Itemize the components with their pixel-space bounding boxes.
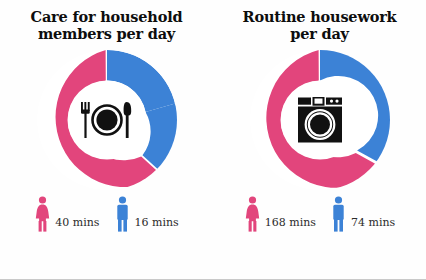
title-line-1: Care for household — [31, 8, 183, 25]
title-line-2: members per day — [38, 25, 175, 42]
legend-label-male-care: 16 mins — [135, 216, 179, 232]
washing-machine-icon — [296, 97, 344, 143]
legend-item-female-care[interactable]: 40 mins — [34, 196, 99, 232]
legend-label-female-housework: 168 mins — [265, 216, 316, 232]
legend-care: 40 mins 16 mins — [7, 196, 207, 232]
donut-center-housework — [281, 81, 359, 159]
page-title-care: Care for household members per day — [7, 8, 207, 42]
chart-panel-routine-housework: Routine housework per day — [213, 0, 426, 270]
donut-center-care — [68, 81, 146, 159]
page-title-housework: Routine housework per day — [220, 8, 420, 42]
title-line-1: Routine housework — [243, 8, 397, 25]
male-pictogram-icon — [330, 196, 347, 232]
legend-item-male-care[interactable]: 16 mins — [114, 196, 179, 232]
female-pictogram-icon — [34, 196, 51, 232]
female-pictogram-icon — [244, 196, 261, 232]
legend-item-female-housework[interactable]: 168 mins — [244, 196, 316, 232]
infographic-sheet: Care for household members per day — [0, 0, 426, 280]
male-pictogram-icon — [114, 196, 131, 232]
plate-fork-knife-icon — [78, 100, 136, 140]
donut-chart-housework — [250, 50, 390, 190]
chart-panel-care-for-household-members: Care for household members per day — [0, 0, 213, 270]
panels-container: Care for household members per day — [0, 0, 426, 270]
title-line-2: per day — [290, 25, 349, 42]
legend-housework: 168 mins 74 mins — [220, 196, 420, 232]
legend-label-female-care: 40 mins — [55, 216, 99, 232]
legend-label-male-housework: 74 mins — [351, 216, 395, 232]
legend-item-male-housework[interactable]: 74 mins — [330, 196, 395, 232]
donut-chart-care — [37, 50, 177, 190]
